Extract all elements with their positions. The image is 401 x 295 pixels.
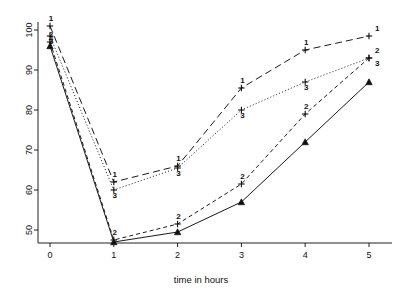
data-point-label: 2	[304, 102, 309, 111]
data-point-label: 2	[113, 228, 118, 237]
y-tick-label: 100	[24, 22, 34, 37]
data-point-label: 1	[375, 24, 380, 33]
data-point-label: 1	[304, 38, 309, 47]
data-point-label: 3	[176, 169, 181, 178]
data-point-label: 4	[49, 34, 54, 43]
x-tick-label: 5	[366, 250, 371, 260]
data-point-label: 3	[240, 111, 245, 120]
x-tick-label: 1	[111, 250, 116, 260]
data-point-label: 2	[176, 212, 181, 221]
chart-container: 5060708090100 012345 1111112222223333334…	[0, 0, 401, 295]
line-chart: 5060708090100 012345 1111112222223333334…	[0, 0, 401, 295]
data-point-label: 2	[240, 172, 245, 181]
data-point-label: 2	[375, 46, 380, 55]
data-point-label: 3	[304, 83, 309, 92]
x-tick-label: 2	[175, 250, 180, 260]
chart-background	[0, 0, 401, 295]
data-point-label: 1	[49, 14, 54, 23]
data-point-label: 3	[113, 191, 118, 200]
data-point-label: 3	[375, 59, 380, 68]
data-point-label: 1	[113, 170, 118, 179]
data-point-label: 1	[176, 154, 181, 163]
y-tick-label: 70	[24, 145, 34, 155]
x-tick-label: 4	[303, 250, 308, 260]
y-tick-label: 80	[24, 105, 34, 115]
y-tick-label: 90	[24, 65, 34, 75]
y-tick-label: 50	[24, 225, 34, 235]
x-tick-label: 0	[47, 250, 52, 260]
data-point-label: 1	[240, 76, 245, 85]
x-axis-title: time in hours	[174, 274, 229, 285]
x-tick-label: 3	[239, 250, 244, 260]
y-tick-label: 60	[24, 185, 34, 195]
